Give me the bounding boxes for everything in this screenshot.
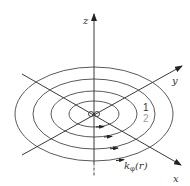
field-label: kφ(r) — [124, 160, 148, 173]
diagram-canvas: z y x 1 2 kφ(r) — [0, 0, 190, 186]
ring-label-2: 2 — [143, 113, 149, 124]
z-axis-label: z — [82, 15, 89, 26]
circulation-arrows — [96, 127, 124, 161]
arrow-ring-4 — [116, 160, 124, 161]
field-label-arg: (r) — [135, 160, 148, 171]
y-axis-label: y — [171, 75, 178, 86]
ring-label-1: 1 — [143, 102, 149, 113]
x-axis-label: x — [173, 173, 179, 184]
arrow-ring-2 — [104, 136, 112, 137]
